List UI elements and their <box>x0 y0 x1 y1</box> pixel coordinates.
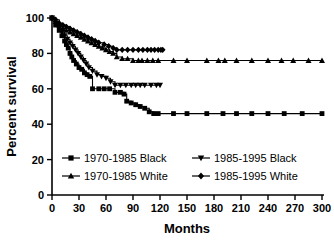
data-point-marker <box>142 106 147 111</box>
data-point-marker <box>234 111 239 116</box>
y-tick-label: 20 <box>32 154 44 166</box>
data-point-marker <box>320 111 325 116</box>
legend-label: 1985-1995 White <box>214 170 298 182</box>
data-point-marker <box>87 74 92 79</box>
data-point-marker <box>185 111 190 116</box>
x-tick-label: 90 <box>127 202 139 214</box>
y-tick-label: 0 <box>38 189 44 201</box>
data-point-marker <box>156 111 161 116</box>
legend-label: 1970-1985 White <box>84 170 168 182</box>
data-point-marker <box>66 46 71 51</box>
y-tick-label: 60 <box>32 83 44 95</box>
series-group <box>49 15 325 116</box>
legend-marker <box>68 155 73 160</box>
y-tick-label: 80 <box>32 47 44 59</box>
x-tick-label: 30 <box>73 202 85 214</box>
data-point-marker <box>119 47 125 53</box>
data-point-marker <box>266 111 271 116</box>
chart-legend: 1970-1985 Black1985-1995 Black1970-1985 … <box>62 152 298 182</box>
legend-item-1[interactable]: 1985-1995 Black <box>192 152 297 164</box>
data-point-marker <box>125 47 131 53</box>
x-tick-label: 300 <box>313 202 331 214</box>
x-axis-ticks: 0306090120150180210240270300 <box>49 195 331 214</box>
survival-chart-figure: 020406080100 030609012015018021024027030… <box>0 0 334 241</box>
data-point-marker <box>96 86 101 91</box>
legend-marker <box>198 173 204 180</box>
legend-label: 1970-1985 Black <box>84 152 167 164</box>
legend-label: 1985-1995 Black <box>214 152 297 164</box>
data-point-marker <box>124 99 129 104</box>
x-tick-label: 210 <box>232 202 250 214</box>
x-tick-label: 180 <box>205 202 223 214</box>
legend-item-2[interactable]: 1970-1985 White <box>62 170 168 182</box>
y-tick-label: 40 <box>32 118 44 130</box>
x-tick-label: 60 <box>100 202 112 214</box>
data-point-marker <box>113 90 118 95</box>
x-tick-label: 0 <box>49 202 55 214</box>
data-point-marker <box>107 86 112 91</box>
data-point-marker <box>147 109 152 114</box>
x-tick-label: 240 <box>259 202 277 214</box>
data-point-marker <box>204 111 209 116</box>
data-point-marker <box>282 111 287 116</box>
data-point-marker <box>122 92 127 97</box>
data-point-marker <box>221 111 226 116</box>
legend-item-0[interactable]: 1970-1985 Black <box>62 152 167 164</box>
data-point-marker <box>300 111 305 116</box>
data-point-marker <box>130 47 136 53</box>
x-axis-title: Months <box>164 221 210 236</box>
series-line <box>52 18 322 114</box>
data-point-marker <box>90 86 95 91</box>
y-axis-title: Percent survival <box>4 56 19 156</box>
x-tick-label: 120 <box>151 202 169 214</box>
data-point-marker <box>151 111 156 116</box>
x-tick-label: 150 <box>178 202 196 214</box>
data-point-marker <box>129 101 134 106</box>
data-point-marker <box>133 102 138 107</box>
data-point-marker <box>249 111 254 116</box>
y-tick-label: 100 <box>26 12 44 24</box>
data-point-marker <box>138 104 143 109</box>
legend-item-3[interactable]: 1985-1995 White <box>192 170 298 182</box>
x-tick-label: 270 <box>286 202 304 214</box>
y-axis-ticks: 020406080100 <box>26 12 52 201</box>
plot-canvas: 020406080100 030609012015018021024027030… <box>0 0 334 241</box>
data-point-marker <box>171 111 176 116</box>
data-point-marker <box>102 86 107 91</box>
